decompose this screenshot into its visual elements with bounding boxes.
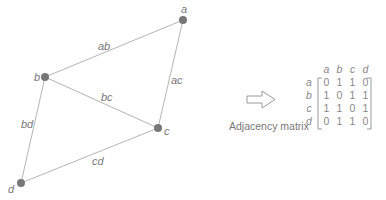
edge-label-cd: cd: [92, 155, 105, 167]
edge-cd: [21, 128, 158, 183]
matrix-cell: 1: [333, 115, 346, 128]
matrix-cell: 1: [333, 102, 346, 115]
matrix-cell: 0: [346, 102, 359, 115]
matrix-cell: 1: [320, 89, 333, 102]
matrix-row: d 0 1 1 0: [302, 115, 372, 128]
right-arrow-icon: [247, 91, 275, 108]
edge-label-ac: ac: [171, 74, 183, 86]
node-d: [17, 179, 25, 187]
matrix-cell: 1: [333, 76, 346, 89]
col-header: d: [359, 63, 372, 76]
edge-ab: [45, 20, 183, 77]
matrix-header-row: a b c d: [302, 63, 372, 76]
node-b: [41, 73, 49, 81]
matrix-row: b 1 0 1 1: [302, 89, 372, 102]
adjacency-matrix: a b c d a 0 1 1 0 b 1 0 1 1 c 1 1 0 1 d …: [302, 63, 372, 128]
matrix-cell: 0: [333, 89, 346, 102]
col-header: a: [320, 63, 333, 76]
row-label: b: [302, 89, 316, 102]
matrix-cell: 0: [359, 115, 372, 128]
row-label: d: [302, 115, 316, 128]
edge-bd: [21, 77, 45, 183]
col-header: b: [333, 63, 346, 76]
col-header: c: [346, 63, 359, 76]
matrix-cell: 0: [320, 76, 333, 89]
row-label: c: [302, 102, 316, 115]
matrix-cell: 0: [320, 115, 333, 128]
row-label: a: [302, 76, 316, 89]
node-label-b: b: [34, 71, 40, 83]
matrix-cell: 1: [359, 102, 372, 115]
adjacency-matrix-caption: Adjacency matrix: [229, 120, 309, 132]
node-label-a: a: [181, 3, 187, 15]
edge-label-bc: bc: [101, 91, 113, 103]
edge-label-bd: bd: [21, 118, 34, 130]
matrix-row: a 0 1 1 0: [302, 76, 372, 89]
node-label-c: c: [164, 125, 170, 137]
matrix-cell: 1: [359, 89, 372, 102]
matrix-cell: 1: [346, 76, 359, 89]
matrix-cell: 1: [320, 102, 333, 115]
matrix-cell: 0: [359, 76, 372, 89]
node-c: [154, 124, 162, 132]
matrix-row: c 1 1 0 1: [302, 102, 372, 115]
matrix-cell: 1: [346, 115, 359, 128]
node-a: [179, 16, 187, 24]
node-label-d: d: [8, 183, 15, 195]
edge-label-ab: ab: [98, 40, 110, 52]
matrix-cell: 1: [346, 89, 359, 102]
